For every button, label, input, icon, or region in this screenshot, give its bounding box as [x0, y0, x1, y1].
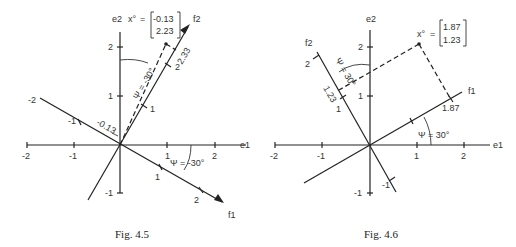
f2-axis-label: f2 — [193, 14, 201, 24]
f1-axis — [40, 98, 222, 202]
f1-axis-label: f1 — [468, 86, 476, 96]
point-x0 — [164, 42, 168, 46]
e1-tick-label: -1 — [69, 151, 77, 161]
e1-tick-label: -2 — [22, 151, 30, 161]
point-label: x° — [128, 14, 137, 24]
e2-tick-label: -1 — [354, 188, 362, 198]
e2-tick-label: -1 — [105, 188, 113, 198]
e2-tick-label: 2 — [358, 42, 363, 52]
e1-tick-label: 2 — [461, 151, 466, 161]
e1-axis-label: e1 — [493, 140, 503, 150]
projection-label: 2.33 — [175, 46, 192, 66]
e1-axis-label: e1 — [240, 140, 250, 150]
angle-label: Ψ = 30° — [333, 56, 358, 89]
equals-sign: = — [140, 14, 145, 24]
e2-axis-label: e2 — [366, 14, 376, 24]
e1-tick-label: 2 — [212, 151, 217, 161]
f2-axis — [317, 52, 396, 192]
f2-tick-label: -1 — [382, 180, 390, 190]
angle-arc — [120, 59, 148, 63]
figures-canvas: -2 -1 1 2 e1 2 1 -1 e2 1 2 f1 -1 -2 1 2 … — [0, 0, 516, 247]
f1-tick-label: 1 — [155, 172, 160, 182]
vector-component: 1.87 — [443, 22, 461, 32]
figure-4-6: -2 -1 1 2 e1 2 1 -1 e2 1.87 f1 2 1 -1 f2 — [270, 14, 503, 240]
e2-axis-label: e2 — [112, 14, 122, 24]
bracket-right — [177, 12, 180, 38]
angle-label: Ψ = -30° — [170, 158, 205, 168]
bracket-right — [463, 20, 466, 46]
f1-axis-label: f1 — [228, 210, 236, 220]
e2-tick-label: 1 — [108, 91, 113, 101]
point-label: x° — [417, 29, 426, 39]
figure-caption: Fig. 4.5 — [115, 228, 149, 240]
angle-label: Ψ = 30° — [418, 130, 450, 140]
f1-neg-tick-label: -1 — [68, 116, 76, 126]
e1-tick-label: -1 — [317, 151, 325, 161]
e1-tick-label: -2 — [270, 151, 278, 161]
angle-label: Ψ = -30° — [131, 66, 157, 101]
point-x0 — [417, 42, 421, 46]
vector-component: 2.23 — [156, 26, 174, 36]
e2-tick-label: 2 — [108, 42, 113, 52]
figure-4-5: -2 -1 1 2 e1 2 1 -1 e2 1 2 f1 -1 -2 1 2 … — [22, 12, 250, 240]
figure-caption: Fig. 4.6 — [364, 228, 398, 240]
f1-tick-label: 2 — [194, 195, 199, 205]
f1-neg-tick-label: -2 — [28, 95, 36, 105]
f2-tick-label: 1 — [336, 104, 341, 114]
f1-arrowhead — [214, 194, 224, 203]
projection-label: -0.13 — [95, 117, 118, 136]
f1-tick-label: 1.87 — [442, 103, 460, 113]
vector-component: 1.23 — [443, 35, 461, 45]
f2-axis-label: f2 — [305, 38, 313, 48]
f2-arrowhead — [180, 24, 190, 34]
e1-tick-label: 1 — [414, 151, 419, 161]
e2-tick-label: 1 — [358, 91, 363, 101]
equals-sign: = — [430, 29, 435, 39]
f2-tick-label: 2 — [305, 59, 310, 69]
projection-dashed-line — [419, 44, 450, 98]
f2-tick-label: 1 — [150, 104, 155, 114]
vector-component: -0.13 — [153, 14, 174, 24]
